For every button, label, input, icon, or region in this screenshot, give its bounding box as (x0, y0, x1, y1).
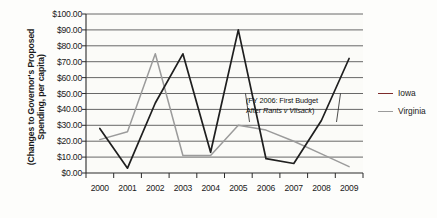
annotation-suffix: ) (312, 106, 314, 115)
chart-figure: (Changes to Governor's Proposed Spending… (0, 0, 437, 218)
y-axis-ticks (82, 14, 86, 173)
x-tick-label: 2009 (332, 183, 366, 193)
chart-legend: Iowa Virginia (378, 84, 426, 120)
annotation-case-name: Rants v Vilsack (263, 106, 312, 115)
legend-item-iowa: Iowa (378, 84, 426, 102)
annotation-line-1: (FY 2006: First Budget (246, 96, 318, 106)
legend-swatch-virginia (378, 111, 393, 112)
annotation-prefix: After (246, 106, 263, 115)
annotation-rants-v-vilsack: (FY 2006: First Budget After Rants v Vil… (246, 96, 318, 115)
legend-swatch-iowa (378, 93, 393, 94)
x-axis-ticks (86, 173, 363, 178)
legend-label-virginia: Virginia (398, 106, 426, 116)
legend-label-iowa: Iowa (398, 88, 416, 98)
legend-item-virginia: Virginia (378, 102, 426, 120)
annotation-line-2: After Rants v Vilsack) (246, 106, 318, 116)
